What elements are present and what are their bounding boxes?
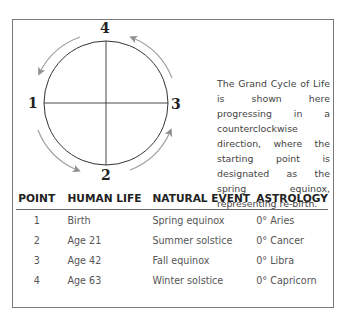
cell-human-life: Age 63 (57, 270, 144, 290)
cell-astrology: 0° Aries (250, 210, 328, 231)
table-row: 4 Age 63 Winter solstice 0° Capricorn (16, 270, 328, 290)
cell-natural-event: Summer solstice (144, 230, 250, 250)
cell-point: 2 (16, 230, 57, 250)
cell-point: 1 (16, 210, 57, 231)
cell-astrology: 0° Capricorn (250, 270, 328, 290)
point-label-4: 4 (100, 20, 110, 36)
table-row: 1 Birth Spring equinox 0° Aries (16, 210, 328, 231)
cell-astrology: 0° Libra (250, 250, 328, 270)
point-label-3: 3 (171, 96, 181, 112)
header-human-life: HUMAN LIFE (57, 189, 144, 210)
cell-human-life: Birth (57, 210, 144, 231)
cycle-table: POINT HUMAN LIFE NATURAL EVENT ASTROLOGY… (16, 189, 328, 290)
point-label-1: 1 (28, 95, 38, 111)
arrow-1-to-2-icon (38, 130, 77, 170)
cell-natural-event: Spring equinox (144, 210, 250, 231)
cell-point: 3 (16, 250, 57, 270)
table-header-row: POINT HUMAN LIFE NATURAL EVENT ASTROLOGY (16, 189, 328, 210)
header-natural-event: NATURAL EVENT (144, 189, 250, 210)
cell-human-life: Age 21 (57, 230, 144, 250)
arrow-2-to-3-icon (130, 132, 170, 170)
point-label-2: 2 (101, 167, 111, 183)
header-astrology: ASTROLOGY (250, 189, 328, 210)
cell-natural-event: Fall equinox (144, 250, 250, 270)
cell-human-life: Age 42 (57, 250, 144, 270)
table-row: 3 Age 42 Fall equinox 0° Libra (16, 250, 328, 270)
cell-point: 4 (16, 270, 57, 290)
arrow-4-to-1-icon (40, 37, 80, 72)
cell-astrology: 0° Cancer (250, 230, 328, 250)
arrow-3-to-4-icon (133, 38, 172, 78)
header-point: POINT (16, 189, 57, 210)
cell-natural-event: Winter solstice (144, 270, 250, 290)
table-row: 2 Age 21 Summer solstice 0° Cancer (16, 230, 328, 250)
